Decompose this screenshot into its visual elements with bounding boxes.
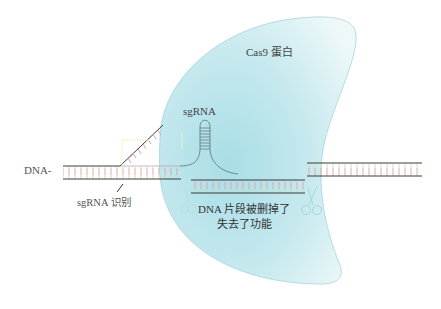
- dna-label: DNA-: [24, 165, 52, 176]
- diagram-canvas: [0, 0, 441, 309]
- dna-excised-fragment: [191, 180, 305, 193]
- crispr-cas9-diagram: Cas9 蛋白 sgRNA DNA- sgRNA 识别 DNA 片段被删掉了 失…: [0, 0, 441, 309]
- dna-right: [307, 163, 422, 176]
- sgrna-recognition-label: sgRNA 识别: [77, 198, 131, 209]
- dna-deleted-label: DNA 片段被删掉了: [198, 204, 290, 215]
- sgrna-label: sgRNA: [183, 106, 216, 117]
- loss-of-function-label: 失去了功能: [217, 219, 272, 230]
- cas9-label: Cas9 蛋白: [246, 47, 293, 58]
